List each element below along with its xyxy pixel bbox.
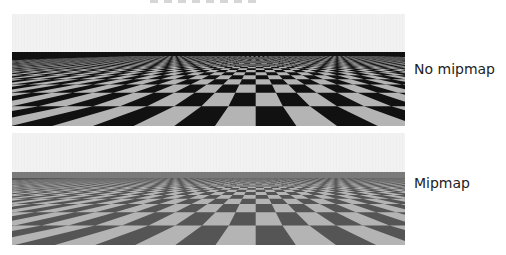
checkerboard-floor: [12, 52, 405, 126]
sky-region: [12, 14, 405, 52]
sky-region: [12, 133, 405, 172]
cropped-caption-remnant: [150, 0, 260, 3]
checkerboard-floor: [12, 172, 405, 245]
render-no-mipmap: [12, 14, 405, 126]
render-mipmap: [12, 133, 405, 245]
label-no-mipmap: No mipmap: [414, 61, 495, 77]
label-mipmap: Mipmap: [414, 175, 470, 191]
